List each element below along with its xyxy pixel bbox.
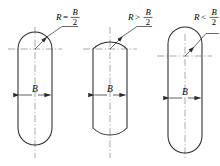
figure-1-radius-leader-extension	[47, 27, 62, 37]
figure-3-note-radius-symbol: R	[193, 12, 200, 22]
figure-2-radius-leader-extension	[123, 27, 137, 37]
figure-2-fraction-numerator: B	[145, 7, 151, 17]
figure-1-dimension-label: B	[32, 84, 38, 94]
figure-2-note-radius-symbol: R	[127, 12, 134, 22]
figure-3-group: B R < B 2	[157, 7, 219, 158]
figure-2-radius-leader	[110, 36, 123, 49]
figure-2-dimension-label: B	[107, 84, 113, 94]
figure-3-note-operator: <	[201, 12, 206, 22]
figure-3-dimension-label: B	[182, 87, 188, 97]
figure-1-fraction-denominator: 2	[73, 17, 77, 27]
figure-1-note-operator: =	[63, 12, 68, 22]
figure-2-fraction-denominator: 2	[146, 17, 150, 27]
figure-2-note: R > B 2	[127, 7, 153, 27]
figure-2-group: B R > B 2	[83, 7, 153, 158]
figure-2-note-operator: >	[135, 12, 140, 22]
figure-3-note: R < B 2	[193, 7, 219, 27]
figure-3-radius-leader	[185, 47, 194, 56]
figure-1-note: R = B 2	[55, 7, 80, 27]
engineering-diagram: B R = B 2 B R > B 2	[0, 0, 220, 166]
figure-3-fraction-denominator: 2	[212, 17, 216, 27]
figure-1-group: B R = B 2	[8, 7, 80, 158]
figure-1-note-radius-symbol: R	[55, 12, 62, 22]
figure-1-fraction-numerator: B	[72, 7, 78, 17]
figure-1-radius-leader	[35, 37, 47, 49]
figure-3-fraction-numerator: B	[211, 7, 217, 17]
